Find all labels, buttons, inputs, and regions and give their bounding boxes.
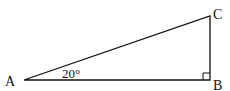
vertex-label-b: B bbox=[213, 78, 222, 91]
triangle-diagram: A B C 20° bbox=[0, 0, 230, 91]
vertex-label-c: C bbox=[213, 7, 222, 22]
vertex-label-a: A bbox=[5, 74, 16, 89]
right-angle-marker bbox=[203, 73, 210, 80]
triangle-abc bbox=[24, 16, 210, 80]
angle-label: 20° bbox=[62, 66, 80, 81]
